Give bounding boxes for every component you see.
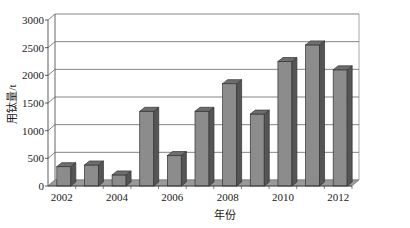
bar-2007 — [195, 107, 214, 186]
x-tick-label: 2002 — [51, 191, 73, 203]
x-tick-label: 2004 — [106, 191, 129, 203]
bar-2012 — [333, 66, 352, 186]
y-axis: 050010001500200025003000 — [22, 14, 48, 192]
bar-2011 — [306, 41, 325, 186]
bar-2008 — [223, 80, 242, 186]
y-tick-label: 0 — [39, 180, 45, 192]
x-tick-label: 2012 — [327, 191, 349, 203]
x-axis: 200220042006200820102012 — [48, 186, 352, 203]
y-axis-label: 用钛量/t — [5, 84, 18, 123]
bar-2005 — [140, 107, 159, 186]
bars — [57, 41, 352, 186]
bar-2003 — [84, 161, 103, 186]
x-tick-label: 2006 — [161, 191, 184, 203]
bar-2004 — [112, 171, 131, 186]
y-tick-label: 500 — [28, 152, 45, 164]
y-tick-label: 1500 — [22, 97, 45, 109]
y-tick-label: 1000 — [22, 125, 45, 137]
y-tick-label: 3000 — [22, 14, 45, 26]
x-tick-label: 2010 — [272, 191, 295, 203]
bar-2009 — [250, 110, 269, 186]
bar-2006 — [167, 152, 186, 186]
bar-2010 — [278, 58, 297, 187]
x-axis-label: 年份 — [214, 208, 236, 221]
x-tick-label: 2008 — [217, 191, 240, 203]
y-tick-label: 2500 — [22, 42, 45, 54]
bar-chart: 050010001500200025003000 200220042006200… — [0, 0, 410, 228]
y-tick-label: 2000 — [22, 69, 45, 81]
bar-2002 — [57, 163, 76, 186]
